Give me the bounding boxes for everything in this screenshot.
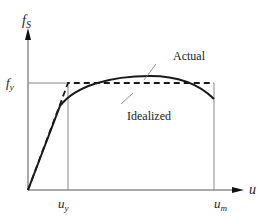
actual-leader-line — [144, 64, 156, 80]
actual-curve — [28, 76, 214, 190]
y-axis-label: fS — [22, 13, 31, 30]
x-axis-arrow-icon — [232, 187, 244, 193]
fy-tick-label: fy — [6, 75, 14, 92]
diagram: fS u fy uy um Actual Idealized — [0, 0, 266, 220]
actual-annotation: Actual — [173, 49, 206, 63]
idealized-curve — [28, 83, 214, 190]
idealized-leader-line — [121, 93, 133, 104]
x-axis-label: u — [249, 182, 256, 197]
um-tick-label: um — [214, 196, 228, 213]
idealized-annotation: Idealized — [127, 109, 171, 123]
plot-canvas: fS u fy uy um Actual Idealized — [0, 0, 266, 220]
uy-tick-label: uy — [58, 196, 69, 213]
